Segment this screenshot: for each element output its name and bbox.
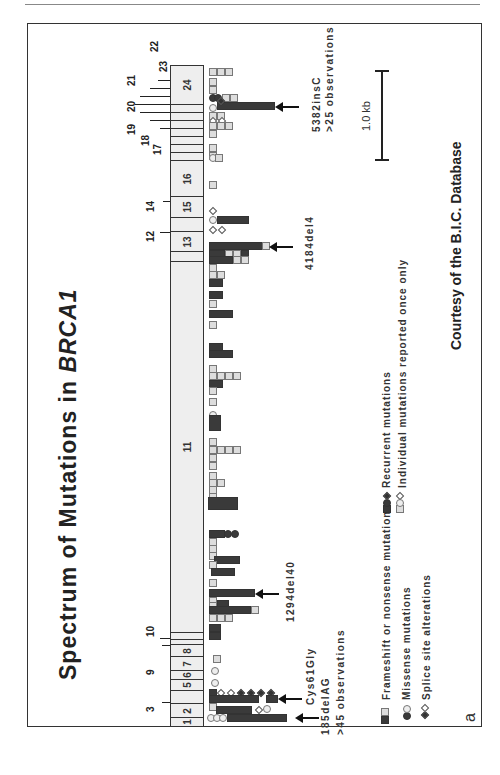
leader-17: [160, 128, 170, 129]
exon-map: 24 16 15 13 11 8 7 6 5 2 1: [170, 65, 206, 727]
arrow-5382insC: [281, 106, 299, 108]
arrow-1294del40: [261, 593, 279, 595]
top-rule: [25, 4, 480, 5]
arrow-cys61gly: [284, 698, 302, 700]
arrow-4184del4: [275, 246, 293, 248]
label-5382insC: 5382insC: [311, 76, 322, 132]
exon-label-20: 20: [126, 101, 137, 112]
label-185delAG: 185delAG: [320, 677, 331, 735]
leader-22: [150, 88, 170, 89]
arrow-185delAG: [301, 717, 319, 719]
scale-bar-cap-top: [375, 70, 389, 72]
legend-frameshift: Frameshift or nonsense mutations: [381, 504, 392, 700]
exon-label-10: 10: [145, 626, 156, 637]
leader-3: [162, 702, 170, 703]
exon-7: 7: [170, 656, 204, 671]
leader-23: [158, 80, 170, 81]
exon-label-23: 23: [158, 61, 169, 72]
label-1294del40: 1294del40: [285, 561, 296, 622]
figure-frame: [27, 23, 482, 727]
legend-individual: Individual mutations reported once only: [397, 259, 408, 488]
label-4184del4: 4184del4: [304, 216, 315, 270]
exon-1: 1: [170, 717, 204, 727]
panel-label: a: [461, 713, 479, 722]
leader-18: [150, 120, 170, 121]
leader-9: [162, 645, 170, 646]
scale-bar-label: 1.0 kb: [360, 101, 372, 131]
exon-16: 16: [170, 160, 204, 197]
exon-label-19: 19: [126, 124, 137, 135]
exon-15: 15: [170, 196, 204, 218]
legend-splice: Splice site alterations: [421, 574, 432, 700]
scale-bar: [381, 70, 383, 161]
exon-label-9: 9: [145, 669, 156, 675]
leader-20: [135, 104, 170, 105]
label-5382insC-note: >25 observations: [324, 26, 335, 132]
exon-label-14: 14: [145, 201, 156, 212]
leader-14: [163, 201, 170, 202]
exon-label-18: 18: [140, 135, 151, 146]
exon-label-21: 21: [126, 75, 137, 86]
label-cys61gly: Cys61Gly: [305, 647, 316, 705]
exon-label-3: 3: [145, 706, 156, 712]
leader-10: [160, 638, 170, 639]
exon-14: [170, 217, 204, 232]
legend-recurrent: Recurrent mutations: [381, 371, 392, 488]
exon-label-22: 22: [149, 41, 160, 52]
exon-2: 2: [170, 703, 204, 718]
exon-13: 13: [170, 231, 204, 252]
leader-21: [140, 96, 170, 97]
leader-12: [160, 232, 170, 233]
exon-3: [170, 690, 204, 704]
scale-bar-cap-bottom: [375, 159, 389, 161]
gene-name: BRCA1: [55, 288, 81, 372]
figure-title: Spectrum of Mutations in BRCA1: [55, 288, 82, 680]
legend-missense: Missense mutations: [401, 586, 412, 700]
courtesy-text: Courtesy of the B.I.C. Database: [448, 142, 464, 351]
exon-label-17: 17: [152, 144, 163, 155]
exon-24: 24: [170, 65, 204, 105]
exon-11: 11: [170, 261, 204, 633]
leader-19: [140, 112, 170, 113]
exon-label-12: 12: [145, 231, 156, 242]
label-185delAG-note: >45 observations: [335, 629, 346, 735]
